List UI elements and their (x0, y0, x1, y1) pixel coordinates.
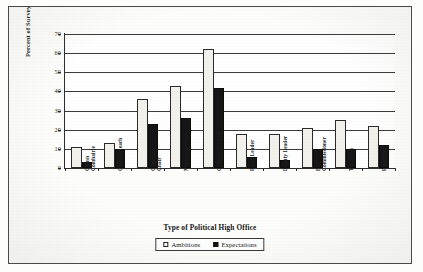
figure-border: Percent of Survey 010203040506070 CeannC… (8, 6, 412, 264)
bar-ambitions (236, 134, 247, 168)
x-axis-title: Type of Political High Office (9, 223, 411, 232)
x-tick-label: EUCommissioner (316, 137, 327, 171)
y-axis-tick-labels: 010203040506070 (39, 34, 61, 168)
bar-group (362, 34, 395, 168)
y-axis-line (64, 33, 65, 168)
x-tick-label: Cabinet Minister (217, 131, 223, 171)
chart-legend: Ambitions Expectations (155, 238, 264, 251)
bar-group (197, 34, 230, 168)
bar-ambitions (71, 147, 82, 168)
y-axis-title: Percent of Survey (24, 0, 31, 57)
legend-item-ambitions: Ambitions (163, 241, 200, 248)
legend-label-expectations: Expectations (221, 241, 256, 248)
open-square-icon (163, 242, 168, 247)
filled-square-icon (213, 242, 218, 247)
x-tick-label: President (382, 149, 388, 171)
bar-group (263, 34, 296, 168)
bar-ambitions (104, 143, 115, 168)
bar-ambitions (368, 126, 379, 168)
legend-label-ambitions: Ambitions (171, 241, 200, 248)
bar-group (164, 34, 197, 168)
x-tick-label: Taoiseach (349, 148, 355, 171)
y-tick-mark (58, 34, 61, 35)
plot-area (65, 34, 395, 168)
bar-group (230, 34, 263, 168)
x-tick-label: Minister of State (184, 131, 190, 171)
y-tick-mark (58, 149, 61, 150)
x-axis-tick-labels: CeannComhairleCathaoirleachCommitteeChai… (65, 171, 395, 223)
y-tick-mark (58, 168, 61, 169)
y-tick-mark (58, 53, 61, 54)
x-tick-label: CommitteeChair (151, 145, 162, 171)
y-tick-mark (58, 130, 61, 131)
y-tick-mark (58, 91, 61, 92)
bar-ambitions (302, 128, 313, 168)
x-tick-label: Party Leader (250, 140, 256, 171)
x-tick-label: Deputy Leader (283, 136, 289, 171)
bar-ambitions (269, 134, 280, 168)
bar-group (329, 34, 362, 168)
figure-container: Percent of Survey 010203040506070 CeannC… (0, 0, 423, 272)
legend-item-expectations: Expectations (213, 241, 256, 248)
y-tick-mark (58, 111, 61, 112)
bar-ambitions (170, 86, 181, 168)
bar-ambitions (335, 120, 346, 168)
bar-ambitions (137, 99, 148, 168)
bar-ambitions (203, 49, 214, 168)
x-axis-line (64, 168, 395, 169)
bar-group (98, 34, 131, 168)
x-tick-mark (395, 168, 396, 171)
x-tick-label: Cathaoirleach (118, 138, 124, 171)
y-tick-mark (58, 72, 61, 73)
x-tick-label: CeannComhairle (85, 146, 96, 171)
